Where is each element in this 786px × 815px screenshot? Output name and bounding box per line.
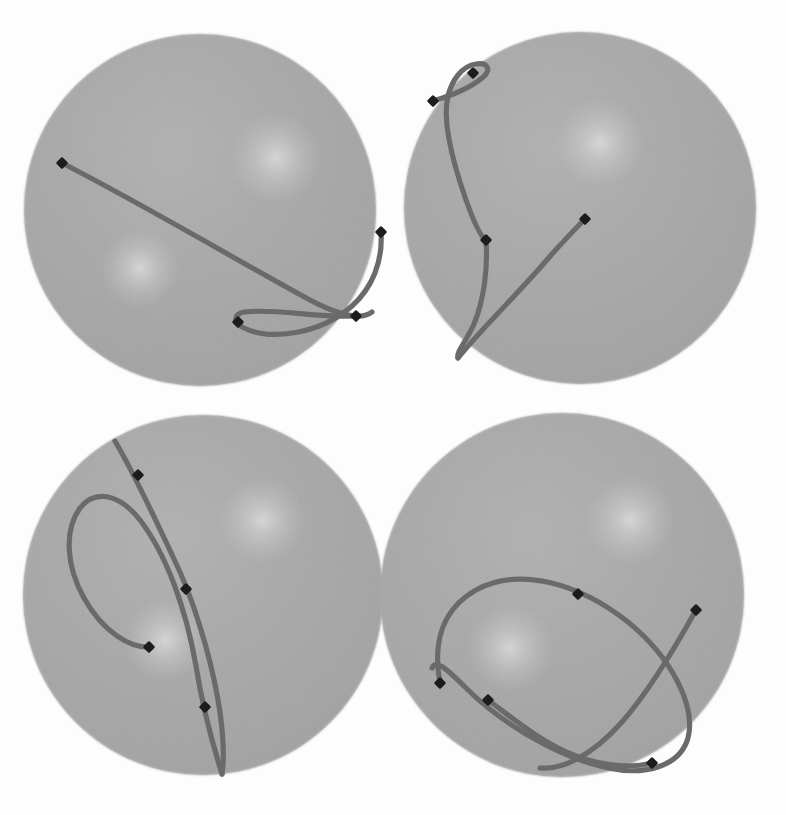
- sphere-highlight-4a: [585, 475, 675, 565]
- panel-top-right: [404, 32, 756, 384]
- sphere-texture-3: [23, 415, 383, 775]
- sphere-highlight-4b: [466, 604, 554, 692]
- sphere-highlight-1b: [100, 228, 180, 308]
- sphere-texture-1: [24, 34, 376, 386]
- sphere-highlight-1a: [230, 112, 322, 204]
- sphere-texture-2: [404, 32, 756, 384]
- sphere-highlight-2a: [555, 98, 645, 188]
- spheres-figure-canvas: [0, 0, 786, 815]
- panel-bottom-left: [23, 415, 383, 775]
- sphere-highlight-3a: [218, 476, 306, 564]
- panel-bottom-right: [380, 413, 744, 777]
- figure-root: [0, 0, 786, 815]
